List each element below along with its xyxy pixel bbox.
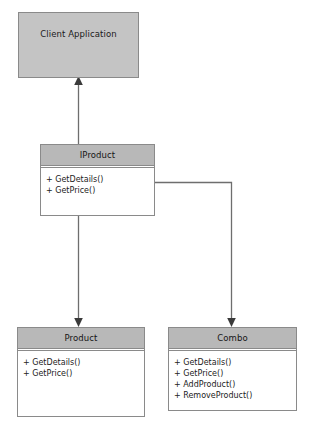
member-item: + AddProduct() — [174, 379, 296, 390]
node-client-application-title: Client Application — [40, 29, 117, 39]
member-item: + GetDetails() — [46, 174, 154, 185]
node-product-header: Product — [18, 328, 144, 349]
node-iproduct-header: IProduct — [41, 145, 154, 166]
node-product[interactable]: Product + GetDetails() + GetPrice() — [17, 327, 145, 417]
node-client-application[interactable]: Client Application — [18, 12, 139, 78]
node-combo[interactable]: Combo + GetDetails() + GetPrice() + AddP… — [168, 327, 297, 411]
node-product-members: + GetDetails() + GetPrice() — [18, 351, 144, 379]
node-iproduct-members: + GetDetails() + GetPrice() — [41, 168, 154, 196]
node-combo-title: Combo — [217, 333, 248, 343]
member-item: + GetDetails() — [174, 357, 296, 368]
connector-iproduct-to-product — [74, 216, 83, 327]
member-item: + GetPrice() — [23, 368, 144, 379]
node-iproduct-title: IProduct — [80, 150, 116, 160]
member-item: + GetDetails() — [23, 357, 144, 368]
member-item: + GetPrice() — [46, 185, 154, 196]
node-iproduct[interactable]: IProduct + GetDetails() + GetPrice() — [40, 144, 155, 216]
member-item: + GetPrice() — [174, 368, 296, 379]
connector-iproduct-to-combo — [155, 183, 236, 328]
member-item: + RemoveProduct() — [174, 390, 296, 401]
node-product-title: Product — [65, 333, 98, 343]
node-combo-header: Combo — [169, 328, 296, 349]
node-combo-members: + GetDetails() + GetPrice() + AddProduct… — [169, 351, 296, 401]
connector-iproduct-to-client — [74, 76, 83, 144]
uml-diagram-canvas: Client Application IProduct + GetDetails… — [0, 0, 312, 433]
